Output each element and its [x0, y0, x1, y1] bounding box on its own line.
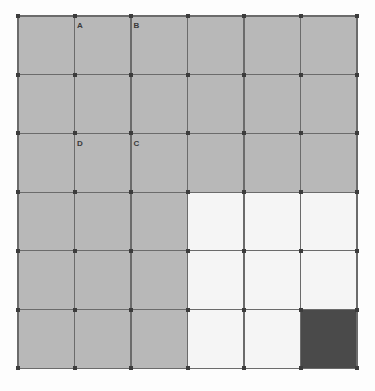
grid-cell — [75, 192, 132, 251]
grid-cell — [244, 16, 301, 75]
grid-vertex-dot — [16, 14, 20, 18]
grid-vertex-dot — [16, 73, 20, 77]
grid-vertex-dot — [355, 190, 359, 194]
grid-vertex-dot — [16, 131, 20, 135]
grid-vertex-dot — [242, 366, 246, 370]
grid-cell — [301, 251, 358, 310]
grid-vertex-dot — [355, 249, 359, 253]
grid-vertex-dot — [129, 131, 133, 135]
grid-vertex-dot — [73, 190, 77, 194]
grid-vertex-dot — [186, 190, 190, 194]
grid-vertex-dot — [73, 14, 77, 18]
point-label-b: B — [134, 22, 140, 30]
grid-cell — [18, 133, 75, 192]
grid-cell — [18, 251, 75, 310]
grid-cell — [301, 310, 358, 369]
grid-vertex-dot — [129, 308, 133, 312]
grid-vertex-dot — [355, 14, 359, 18]
grid-cell — [75, 75, 132, 134]
grid-vertex-dot — [16, 308, 20, 312]
grid-cell — [75, 310, 132, 369]
grid-cell — [131, 133, 188, 192]
figure-canvas: ABDC — [0, 0, 375, 391]
grid-vertex-dot — [299, 131, 303, 135]
point-label-d: D — [77, 140, 83, 148]
grid-cell — [244, 251, 301, 310]
grid-cell — [131, 192, 188, 251]
grid-vertex-dot — [129, 73, 133, 77]
grid-vertex-dot — [355, 73, 359, 77]
grid-vertex-dot — [129, 14, 133, 18]
grid-cell — [188, 16, 245, 75]
grid-vertex-dot — [355, 308, 359, 312]
grid-vertex-dot — [186, 366, 190, 370]
grid-vertex-dot — [242, 308, 246, 312]
grid-vertex-dot — [73, 131, 77, 135]
grid-vertex-dot — [242, 249, 246, 253]
grid-cell — [18, 75, 75, 134]
grid-vertex-dot — [73, 73, 77, 77]
grid-vertex-dot — [299, 14, 303, 18]
grid-cell — [188, 75, 245, 134]
grid-cell — [244, 75, 301, 134]
grid-cell — [188, 133, 245, 192]
grid-cell — [75, 251, 132, 310]
grid-vertex-dot — [16, 190, 20, 194]
grid-cell — [244, 192, 301, 251]
grid-cell — [18, 310, 75, 369]
grid-vertex-dot — [129, 249, 133, 253]
grid-vertex-dot — [129, 190, 133, 194]
grid-cell — [18, 16, 75, 75]
grid-vertex-dot — [186, 14, 190, 18]
grid-cell — [244, 133, 301, 192]
grid-vertex-dot — [186, 73, 190, 77]
grid-cell — [131, 16, 188, 75]
grid-vertex-dot — [299, 73, 303, 77]
grid-vertex-dot — [242, 14, 246, 18]
grid-cell — [188, 310, 245, 369]
point-label-c: C — [134, 140, 140, 148]
grid-vertex-dot — [242, 131, 246, 135]
grid-vertex-dot — [186, 131, 190, 135]
grid-cell — [301, 133, 358, 192]
grid-vertex-dot — [16, 366, 20, 370]
grid-vertex-dot — [299, 308, 303, 312]
grid-cell — [131, 75, 188, 134]
grid-diagram — [0, 0, 375, 391]
grid-cell — [188, 192, 245, 251]
grid-vertex-dot — [129, 366, 133, 370]
grid-cell — [131, 251, 188, 310]
grid-vertex-dot — [242, 190, 246, 194]
grid-cell — [301, 192, 358, 251]
grid-cell — [188, 251, 245, 310]
point-label-a: A — [77, 22, 83, 30]
grid-vertex-dot — [299, 366, 303, 370]
grid-cell — [18, 192, 75, 251]
grid-vertex-dot — [299, 190, 303, 194]
grid-cell — [244, 310, 301, 369]
grid-cell — [131, 310, 188, 369]
grid-vertex-dot — [355, 366, 359, 370]
grid-vertex-dot — [73, 308, 77, 312]
grid-vertex-dot — [186, 249, 190, 253]
grid-cell — [301, 75, 358, 134]
grid-vertex-dot — [299, 249, 303, 253]
grid-vertex-dot — [242, 73, 246, 77]
grid-vertex-dot — [355, 131, 359, 135]
grid-vertex-dot — [16, 249, 20, 253]
grid-vertex-dot — [73, 366, 77, 370]
grid-cell — [301, 16, 358, 75]
grid-vertex-dot — [186, 308, 190, 312]
grid-vertex-dot — [73, 249, 77, 253]
